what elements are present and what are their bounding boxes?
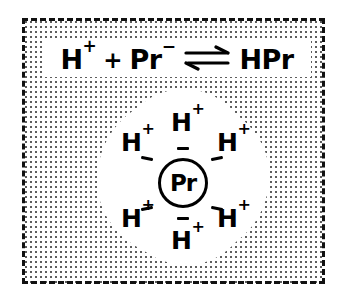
compartment-frame: H+ + Pr− HPr Pr H	[22, 18, 325, 284]
charge-plus-superscript: +	[83, 36, 97, 56]
hydrogen-ion-lower-right: H+	[217, 205, 250, 231]
equation-plus-operator: +	[103, 47, 122, 73]
protein-label: Pr	[170, 172, 196, 195]
charge-plus-superscript: +	[237, 119, 250, 138]
charge-plus-superscript: +	[237, 195, 250, 214]
charge-minus-superscript: −	[162, 36, 176, 56]
diagram-canvas: H+ + Pr− HPr Pr H	[0, 0, 344, 298]
charge-plus-superscript: +	[141, 195, 154, 214]
equation-product: HPr	[239, 46, 293, 73]
protein-negative-charge-bottom	[177, 217, 189, 220]
equation-reactant-1: H+	[60, 45, 96, 73]
charge-plus-superscript: +	[191, 217, 204, 236]
hydrogen-ion-bottom: H+	[171, 227, 204, 253]
protein-core-circle: Pr	[158, 158, 208, 208]
charge-plus-superscript: +	[191, 99, 204, 118]
protein-negative-charge-top	[177, 147, 189, 150]
charge-plus-superscript: +	[141, 119, 154, 138]
hydrogen-ion-lower-left: H+	[121, 205, 154, 231]
equilibrium-arrow-icon	[183, 45, 231, 75]
equation-reactant-2: Pr−	[130, 45, 176, 73]
hydrogen-ion-upper-right: H+	[217, 129, 250, 155]
hydrogen-ion-upper-left: H+	[121, 129, 154, 155]
chemical-equation: H+ + Pr− HPr	[43, 41, 311, 77]
hydrogen-ion-top: H+	[171, 109, 204, 135]
